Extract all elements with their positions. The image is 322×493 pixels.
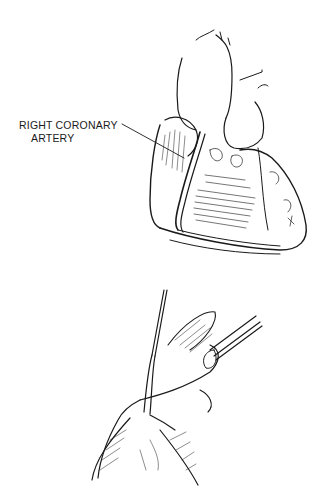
vessel-drawing <box>92 290 262 485</box>
label-line-2: ARTERY <box>19 132 118 145</box>
label-leader-line <box>122 124 184 158</box>
right-coronary-artery-label: RIGHT CORONARY ARTERY <box>19 119 118 145</box>
illustration <box>0 0 322 493</box>
label-line-1: RIGHT CORONARY <box>19 119 118 131</box>
heart-drawing <box>150 30 306 254</box>
